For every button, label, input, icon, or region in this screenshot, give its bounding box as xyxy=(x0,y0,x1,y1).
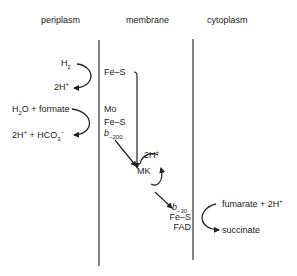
fdh-mo-label: Mo xyxy=(104,104,117,114)
header-membrane: membrane xyxy=(126,15,169,25)
frd-fes-label: Fe–S xyxy=(169,212,191,222)
hydrogenase-electron-path xyxy=(134,72,137,168)
mk-protons-label: 2H+ xyxy=(144,150,159,160)
fdh-cytb-label: b−200 xyxy=(104,128,123,138)
frd-fad-label: FAD xyxy=(173,222,191,232)
formate-oxidation-arrow xyxy=(72,109,90,135)
water-formate-label: H2O + formate xyxy=(12,104,70,114)
hydrogenase-fes-label: Fe–S xyxy=(104,67,126,77)
frd-cytb-label: b−30 xyxy=(172,202,187,212)
mk-to-frd-electron-path xyxy=(155,192,172,208)
header-cytoplasm: cytoplasm xyxy=(207,15,248,25)
menaquinone-label: MK xyxy=(137,166,151,176)
fumarate-reduction-arrow xyxy=(202,204,219,230)
mk-proton-arrow-down xyxy=(151,168,162,185)
protons-label-1: 2H+ xyxy=(54,82,69,92)
protons-bicarbonate-label: 2H+ + HCO3− xyxy=(12,130,64,140)
h2-label: H2 xyxy=(61,58,71,68)
h2-oxidation-arrow xyxy=(74,64,91,88)
header-periplasm: periplasm xyxy=(41,15,80,25)
fdh-electron-path xyxy=(115,140,136,166)
succinate-label: succinate xyxy=(222,225,260,235)
fdh-fes-label: Fe–S xyxy=(104,117,126,127)
fumarate-label: fumarate + 2H+ xyxy=(222,199,283,209)
